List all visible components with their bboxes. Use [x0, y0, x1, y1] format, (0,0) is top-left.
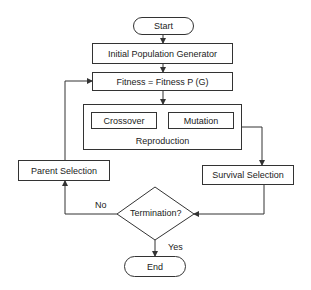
reproduction-label: Reproduction — [84, 136, 241, 146]
parent-selection-node: Parent Selection — [18, 160, 110, 181]
fitness-node: Fitness = Fitness P (G) — [92, 72, 233, 91]
no-edge-label: No — [95, 200, 107, 210]
survival-selection-node: Survival Selection — [202, 165, 294, 185]
start-label: Start — [154, 21, 173, 31]
mutation-label: Mutation — [184, 116, 219, 126]
end-node: End — [124, 256, 186, 277]
parent-selection-label: Parent Selection — [31, 166, 97, 176]
start-node: Start — [133, 17, 194, 35]
termination-label: Termination? — [130, 208, 182, 218]
survival-selection-label: Survival Selection — [212, 170, 284, 180]
end-label: End — [147, 262, 163, 272]
initial-population-node: Initial Population Generator — [92, 43, 233, 64]
mutation-node: Mutation — [168, 112, 234, 129]
yes-edge-label: Yes — [168, 242, 183, 252]
initial-population-label: Initial Population Generator — [108, 49, 217, 59]
crossover-node: Crossover — [91, 112, 157, 129]
fitness-label: Fitness = Fitness P (G) — [116, 77, 208, 87]
crossover-label: Crossover — [103, 116, 144, 126]
